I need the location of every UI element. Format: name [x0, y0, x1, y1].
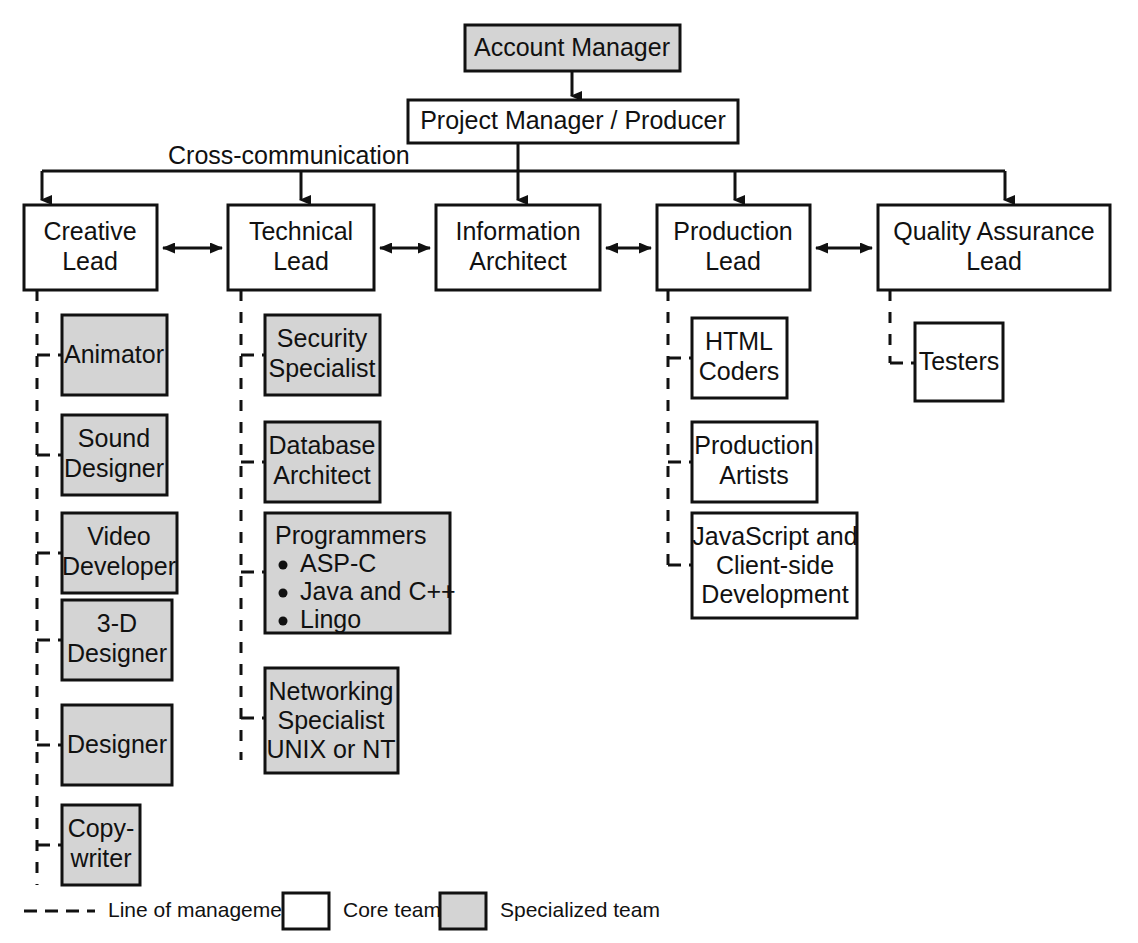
information-architect-label-line2: Architect — [469, 247, 566, 275]
org-chart-diagram: Account Manager Project Manager / Produc… — [0, 0, 1138, 943]
javascript-client-side-label-line2: Client-side — [716, 551, 834, 579]
networking-specialist-label-line1: Networking — [268, 677, 393, 705]
qa-lead-label-line1: Quality Assurance — [893, 217, 1095, 245]
3d-designer-label-line2: Designer — [67, 639, 167, 667]
video-developer-label-line1: Video — [87, 522, 151, 550]
designer-label: Designer — [67, 730, 167, 758]
programmers-bullet-2: Java and C++ — [300, 577, 456, 605]
node-networking-specialist[interactable]: Networking Specialist UNIX or NT — [265, 668, 398, 773]
legend-specialized-team-label: Specialized team — [500, 898, 660, 921]
production-lead-label-line1: Production — [673, 217, 793, 245]
technical-lead-label-line1: Technical — [249, 217, 353, 245]
node-designer[interactable]: Designer — [62, 705, 172, 785]
legend-specialized-team-swatch — [440, 893, 486, 929]
legend-core-team-swatch — [283, 893, 329, 929]
bullet-icon — [279, 617, 288, 626]
node-html-coders[interactable]: HTML Coders — [692, 318, 787, 398]
node-javascript-client-side[interactable]: JavaScript and Client-side Development — [692, 513, 858, 618]
node-testers[interactable]: Testers — [915, 323, 1003, 401]
production-artists-label-line2: Artists — [719, 461, 788, 489]
information-architect-label-line1: Information — [455, 217, 580, 245]
programmers-bullet-3: Lingo — [300, 605, 361, 633]
creative-lead-label-line2: Lead — [62, 247, 118, 275]
networking-specialist-label-line2: Specialist — [278, 706, 385, 734]
html-coders-label-line1: HTML — [705, 327, 773, 355]
qa-lead-label-line2: Lead — [966, 247, 1022, 275]
node-project-manager[interactable]: Project Manager / Producer — [408, 100, 738, 143]
legend-line-of-management-label: Line of management — [108, 898, 300, 921]
technical-lead-label-line2: Lead — [273, 247, 329, 275]
sound-designer-label-line1: Sound — [78, 424, 150, 452]
node-production-lead[interactable]: Production Lead — [657, 205, 810, 290]
node-programmers[interactable]: Programmers ASP-C Java and C++ Lingo — [265, 513, 456, 633]
database-architect-label-line1: Database — [268, 431, 375, 459]
node-technical-lead[interactable]: Technical Lead — [228, 205, 374, 290]
html-coders-label-line2: Coders — [699, 357, 780, 385]
copywriter-label-line2: writer — [69, 844, 131, 872]
javascript-client-side-label-line3: Development — [701, 580, 848, 608]
legend: Line of management Core team Specialized… — [24, 893, 660, 929]
node-production-artists[interactable]: Production Artists — [692, 422, 817, 502]
video-developer-label-line2: Developer — [62, 552, 176, 580]
database-architect-label-line2: Architect — [273, 461, 370, 489]
testers-label: Testers — [919, 347, 1000, 375]
legend-core-team-label: Core team — [343, 898, 441, 921]
production-artists-label-line1: Production — [694, 431, 814, 459]
animator-label: Animator — [64, 340, 164, 368]
security-specialist-label-line1: Security — [277, 324, 368, 352]
node-information-architect[interactable]: Information Architect — [436, 205, 600, 290]
bullet-icon — [279, 589, 288, 598]
networking-specialist-label-line3: UNIX or NT — [266, 735, 395, 763]
programmers-label: Programmers — [275, 521, 426, 549]
node-video-developer[interactable]: Video Developer — [62, 513, 177, 593]
project-manager-label: Project Manager / Producer — [420, 106, 726, 134]
node-quality-assurance-lead[interactable]: Quality Assurance Lead — [878, 205, 1110, 290]
org-chart-canvas: Account Manager Project Manager / Produc… — [0, 0, 1138, 943]
sound-designer-label-line2: Designer — [64, 454, 164, 482]
node-sound-designer[interactable]: Sound Designer — [62, 415, 167, 495]
copywriter-label-line1: Copy- — [68, 814, 135, 842]
node-security-specialist[interactable]: Security Specialist — [265, 315, 380, 395]
production-lead-label-line2: Lead — [705, 247, 761, 275]
cross-communication-label: Cross-communication — [168, 141, 410, 169]
javascript-client-side-label-line1: JavaScript and — [692, 522, 857, 550]
programmers-bullet-1: ASP-C — [300, 549, 376, 577]
node-copywriter[interactable]: Copy- writer — [62, 805, 140, 885]
node-creative-lead[interactable]: Creative Lead — [24, 205, 157, 290]
node-database-architect[interactable]: Database Architect — [265, 422, 380, 502]
node-animator[interactable]: Animator — [62, 315, 167, 395]
node-account-manager[interactable]: Account Manager — [465, 25, 680, 71]
node-3d-designer[interactable]: 3-D Designer — [62, 600, 172, 680]
security-specialist-label-line2: Specialist — [269, 354, 376, 382]
bullet-icon — [279, 561, 288, 570]
3d-designer-label-line1: 3-D — [97, 609, 137, 637]
account-manager-label: Account Manager — [474, 33, 670, 61]
creative-lead-label-line1: Creative — [43, 217, 136, 245]
